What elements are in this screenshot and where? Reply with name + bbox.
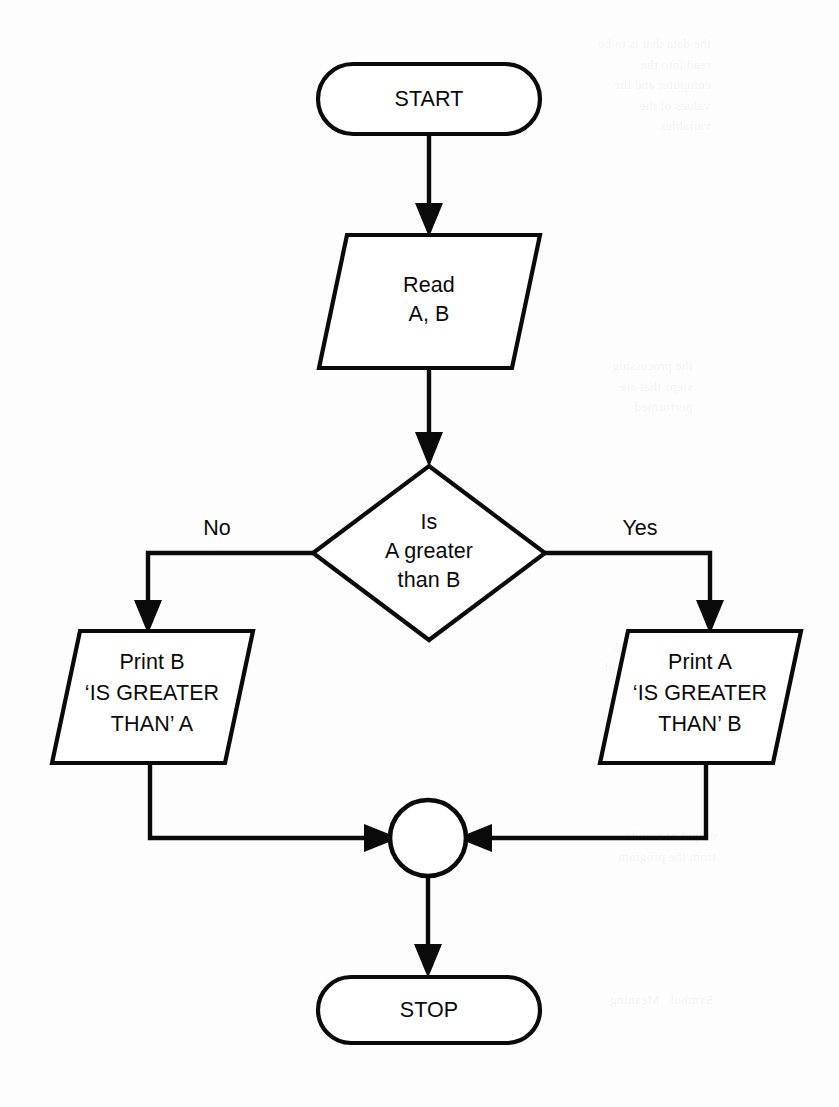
print-a-label-line1: Print A xyxy=(668,650,733,674)
node-stop[interactable]: STOP xyxy=(318,977,540,1043)
edge-print-b-to-connector xyxy=(150,763,399,852)
flowchart-canvas: the data that is to be read into the com… xyxy=(0,0,839,1107)
edge-decision-no xyxy=(134,553,313,634)
edge-connector-to-stop xyxy=(414,876,442,978)
flowchart-svg: START Read A, B Is A greater than B xyxy=(0,0,839,1107)
edge-read-to-decision xyxy=(415,368,443,467)
print-b-label-line1: Print B xyxy=(119,650,184,674)
edge-print-a-to-connector xyxy=(457,763,706,852)
decision-label-line2: A greater xyxy=(385,539,473,563)
connector-circle-shape xyxy=(390,800,466,876)
branch-label-no: No xyxy=(203,516,231,540)
edge-line xyxy=(150,763,376,838)
print-b-label-line2: ‘IS GREATER xyxy=(85,681,220,705)
edge-start-to-read xyxy=(415,134,443,237)
print-b-label-line3: THAN’ A xyxy=(111,712,194,736)
node-print-b[interactable]: Print B ‘IS GREATER THAN’ A xyxy=(52,631,253,763)
node-connector[interactable] xyxy=(390,800,466,876)
node-read[interactable]: Read A, B xyxy=(319,235,540,368)
node-decision[interactable]: Is A greater than B xyxy=(313,466,545,640)
print-a-label-line2: ‘IS GREATER xyxy=(633,681,768,705)
edge-decision-yes xyxy=(545,553,724,634)
edge-line xyxy=(545,553,710,612)
node-print-a[interactable]: Print A ‘IS GREATER THAN’ B xyxy=(600,631,801,763)
read-label-line1: Read xyxy=(403,273,455,297)
edge-line xyxy=(480,763,706,838)
print-a-label-line3: THAN’ B xyxy=(658,712,742,736)
decision-label-line1: Is xyxy=(421,510,438,534)
decision-label-line3: than B xyxy=(398,568,461,592)
edge-line xyxy=(148,553,313,612)
read-label-line2: A, B xyxy=(408,302,449,326)
arrowhead-down-icon xyxy=(414,944,442,978)
arrowhead-down-icon xyxy=(415,203,443,237)
stop-label: STOP xyxy=(400,998,459,1022)
start-label: START xyxy=(395,87,464,111)
branch-label-yes: Yes xyxy=(622,516,657,540)
arrowhead-down-icon xyxy=(415,432,443,467)
node-start[interactable]: START xyxy=(318,64,540,134)
